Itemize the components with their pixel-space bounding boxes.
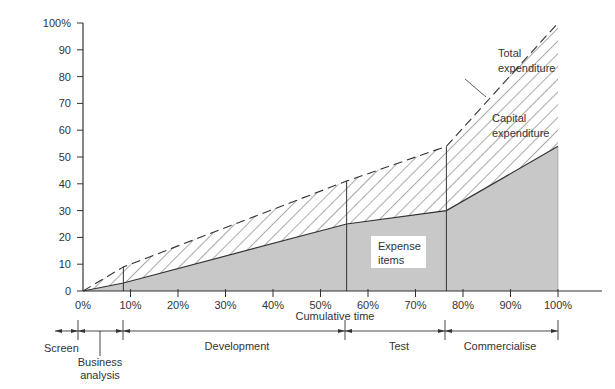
stage-business-analysis: Businessanalysis xyxy=(78,356,123,381)
svg-text:90%: 90% xyxy=(499,299,521,311)
stage-commercialise: Commercialise xyxy=(464,340,537,352)
stage-screen: Screen xyxy=(44,342,79,354)
x-axis-ticks: 0%10%20%30%40%50%60%70%80%90%100% xyxy=(75,289,572,311)
svg-text:30: 30 xyxy=(59,205,71,217)
total-expenditure-pointer xyxy=(465,79,486,97)
svg-text:40: 40 xyxy=(59,178,71,190)
svg-text:80%: 80% xyxy=(452,299,474,311)
svg-text:90: 90 xyxy=(59,44,71,56)
stage-development: Development xyxy=(205,340,270,352)
svg-text:10: 10 xyxy=(59,258,71,270)
y-axis-ticks: 0102030405060708090100% xyxy=(43,17,83,297)
svg-text:40%: 40% xyxy=(262,299,284,311)
svg-text:10%: 10% xyxy=(119,299,141,311)
svg-text:70: 70 xyxy=(59,97,71,109)
x-axis-title: Cumulative time xyxy=(296,310,375,322)
svg-text:70%: 70% xyxy=(404,299,426,311)
svg-text:100%: 100% xyxy=(43,17,71,29)
svg-text:100%: 100% xyxy=(544,299,572,311)
svg-text:20%: 20% xyxy=(167,299,189,311)
svg-text:80: 80 xyxy=(59,71,71,83)
svg-text:0%: 0% xyxy=(75,299,91,311)
expenditure-chart: 0102030405060708090100% 0%10%20%30%40%50… xyxy=(0,0,615,389)
svg-text:20: 20 xyxy=(59,231,71,243)
stage-test: Test xyxy=(389,340,409,352)
svg-text:60: 60 xyxy=(59,124,71,136)
svg-text:30%: 30% xyxy=(214,299,236,311)
svg-text:0: 0 xyxy=(65,285,71,297)
svg-text:50: 50 xyxy=(59,151,71,163)
